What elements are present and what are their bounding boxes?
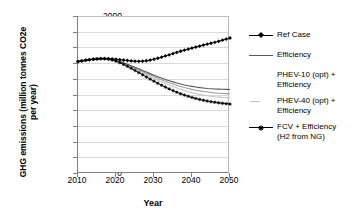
data-point-marker — [213, 40, 217, 44]
data-point-marker — [217, 39, 221, 43]
legend-key-icon — [248, 122, 274, 133]
series-line — [78, 59, 230, 90]
x-tick-label: 2050 — [209, 176, 249, 185]
data-point-marker — [194, 45, 198, 49]
data-point-marker — [84, 58, 88, 62]
data-point-marker — [137, 59, 141, 63]
data-point-marker — [175, 51, 179, 55]
data-point-marker — [156, 56, 160, 60]
chart-legend: Ref CaseEfficiencyPHEV-10 (opt) + Effici… — [248, 30, 356, 150]
data-point-marker — [179, 49, 183, 53]
x-tick-label: 2040 — [171, 176, 211, 185]
series-layer — [78, 16, 230, 173]
legend-label: PHEV-10 (opt) + Efficiency — [277, 70, 335, 89]
data-point-marker — [160, 55, 164, 59]
legend-item[interactable]: FCV + Efficiency (H2 from NG) — [248, 122, 356, 141]
data-point-marker — [91, 57, 95, 61]
data-point-marker — [186, 47, 190, 51]
x-tick-mark — [115, 173, 116, 177]
y-axis-title: GHG emissions (million tonnes CO2e per y… — [18, 2, 38, 202]
data-point-marker — [133, 59, 137, 63]
y-axis-title-wrap: GHG emissions (million tonnes CO2e per y… — [0, 0, 26, 200]
data-point-marker — [183, 48, 187, 52]
series-1 — [78, 59, 230, 90]
legend-label: FCV + Efficiency (H2 from NG) — [277, 122, 336, 141]
legend-item[interactable]: Ref Case — [248, 30, 356, 41]
data-point-marker — [99, 57, 103, 61]
data-point-marker — [145, 59, 149, 63]
data-point-marker — [129, 59, 133, 63]
legend-key-icon — [248, 50, 274, 61]
data-point-marker — [198, 44, 202, 48]
x-tick-mark — [77, 173, 78, 177]
legend-label: Efficiency — [277, 50, 311, 60]
data-point-marker — [80, 59, 84, 63]
legend-item[interactable]: Efficiency — [248, 50, 356, 61]
data-point-marker — [95, 57, 99, 61]
data-point-marker — [88, 58, 92, 62]
plot-area — [77, 16, 229, 173]
data-point-marker — [148, 58, 152, 62]
data-point-marker — [122, 58, 126, 62]
data-point-marker — [76, 60, 80, 64]
data-point-marker — [190, 46, 194, 50]
y-axis-title-line1: GHG emissions (million tonnes CO2e — [18, 27, 28, 178]
data-point-marker — [209, 41, 213, 45]
data-point-marker — [141, 59, 145, 63]
data-point-marker — [103, 57, 107, 61]
legend-label: Ref Case — [277, 30, 310, 40]
data-point-marker — [224, 37, 228, 41]
data-point-marker — [126, 59, 130, 63]
data-point-marker — [202, 43, 206, 47]
data-point-marker — [228, 36, 232, 40]
legend-key-icon — [248, 70, 274, 81]
x-axis-title: Year — [77, 198, 229, 208]
data-point-marker — [167, 53, 171, 57]
x-tick-mark — [191, 173, 192, 177]
x-tick-label: 2030 — [133, 176, 173, 185]
chart-figure: GHG emissions (million tonnes CO2e per y… — [0, 0, 358, 222]
legend-item[interactable]: PHEV-40 (opt) + Efficiency — [248, 96, 356, 115]
x-tick-mark — [229, 173, 230, 177]
series-4 — [76, 57, 231, 106]
legend-key-icon — [248, 30, 274, 41]
x-tick-label: 2010 — [57, 176, 97, 185]
data-point-marker — [164, 54, 168, 58]
legend-label: PHEV-40 (opt) + Efficiency — [277, 96, 335, 115]
legend-item[interactable]: PHEV-10 (opt) + Efficiency — [248, 70, 356, 89]
data-point-marker — [171, 52, 175, 56]
legend-key-icon — [248, 96, 274, 107]
data-point-marker — [152, 57, 156, 61]
x-tick-mark — [153, 173, 154, 177]
data-point-marker — [221, 38, 225, 42]
asterisk-icon — [257, 124, 265, 132]
x-tick-label: 2020 — [95, 176, 135, 185]
y-axis-title-line2: per year) — [28, 2, 38, 202]
data-point-marker — [205, 42, 209, 46]
